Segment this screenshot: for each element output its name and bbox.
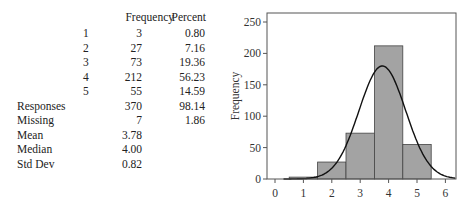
x-tick-label: 4 [386,187,392,199]
x-tick-label: 1 [301,187,307,199]
x-axis: 0123456 [272,179,448,199]
histogram-chart: 050100150200250 0123456 Frequency [0,0,472,208]
histogram-bar [346,133,374,179]
x-tick-label: 6 [443,187,449,199]
y-tick-label: 0 [255,173,261,185]
x-tick-label: 0 [272,187,278,199]
y-tick-label: 50 [250,142,262,154]
x-tick-label: 3 [357,187,363,199]
y-tick-label: 200 [244,47,262,59]
histogram-bar [374,46,402,179]
y-tick-label: 100 [244,110,262,122]
y-axis-label: Frequency [229,71,242,120]
y-axis: 050100150200250 [244,16,267,185]
x-tick-label: 5 [414,187,420,199]
y-tick-label: 250 [244,16,262,28]
histogram-bars [289,46,431,179]
histogram-bar [318,162,346,179]
x-tick-label: 2 [329,187,335,199]
y-tick-label: 150 [244,79,262,91]
